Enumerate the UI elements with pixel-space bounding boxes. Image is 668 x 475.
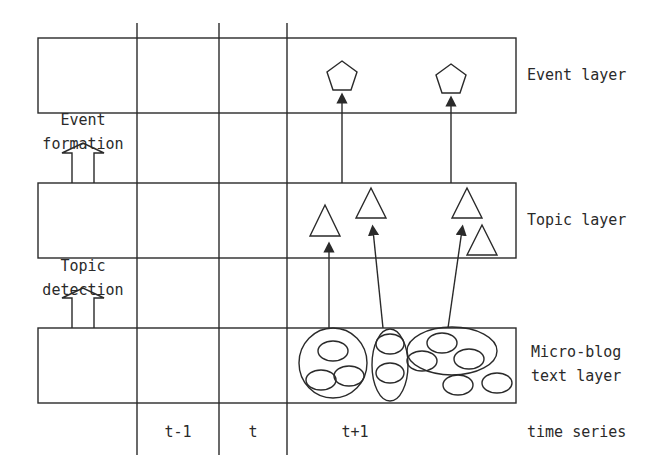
topic-triangle-icon: [452, 188, 482, 218]
text-node: [376, 334, 404, 354]
text-node: [427, 333, 457, 353]
topic-detection-label-line1: Topic: [40, 255, 126, 277]
topic-triangle-icon: [356, 188, 386, 218]
topic-triangle-icon: [310, 205, 340, 236]
event-layer-box: [38, 38, 516, 113]
event-pentagon-icon: [327, 61, 357, 90]
topic-detection-label-line2: detection: [30, 279, 136, 301]
topic-triangle-icon: [467, 225, 497, 255]
microblog-layer-label-line1: Micro-blog: [531, 341, 621, 363]
event-formation-label-line2: formation: [30, 133, 136, 155]
event-formation-label-line1: Event: [40, 109, 126, 131]
topic-layer-label: Topic layer: [527, 209, 626, 231]
time-label-t-plus-1: t+1: [325, 421, 385, 443]
time-label-t: t: [219, 421, 287, 443]
text-node: [482, 373, 512, 393]
microblog-layer-box: [38, 328, 516, 403]
text-node: [306, 370, 336, 390]
text-to-topic-arrow: [373, 230, 383, 328]
microblog-layer-label-line2: text layer: [531, 365, 621, 387]
text-node: [454, 349, 484, 369]
text-node: [334, 366, 364, 386]
text-node: [443, 375, 473, 395]
text-cluster: [299, 328, 367, 398]
text-node: [376, 363, 404, 383]
time-series-label: time series: [527, 421, 626, 443]
text-node: [318, 341, 348, 361]
text-to-topic-arrow: [448, 230, 462, 328]
event-pentagon-icon: [436, 64, 466, 93]
topic-layer-box: [38, 183, 516, 258]
event-layer-label: Event layer: [527, 64, 626, 86]
time-label-t-minus-1: t-1: [137, 421, 219, 443]
